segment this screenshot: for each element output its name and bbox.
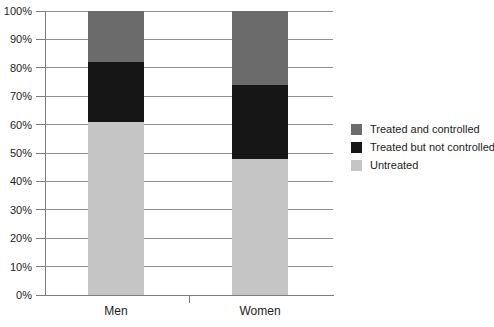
- bar-segment-treated-but-not-controlled: [232, 85, 288, 159]
- y-axis-tick: [36, 295, 45, 296]
- y-axis-tick-label: 90%: [0, 34, 32, 45]
- y-axis-tick: [36, 209, 45, 210]
- y-axis-tick-label: 10%: [0, 262, 32, 273]
- stacked-bar-chart: Treated and controlledTreated but not co…: [0, 0, 494, 327]
- y-axis-tick: [36, 153, 45, 154]
- y-axis-line: [45, 11, 46, 296]
- legend-label: Treated but not controlled: [370, 142, 494, 153]
- y-axis-tick-label: 60%: [0, 120, 32, 131]
- y-axis-tick: [36, 39, 45, 40]
- bar-segment-untreated: [88, 122, 144, 295]
- y-axis-tick: [36, 124, 45, 125]
- y-axis-tick: [36, 238, 45, 239]
- y-axis-tick-label: 30%: [0, 205, 32, 216]
- y-axis-tick-label: 20%: [0, 233, 32, 244]
- x-axis-category-label: Women: [220, 305, 300, 317]
- y-axis-tick-label: 100%: [0, 6, 32, 17]
- y-axis-tick-label: 40%: [0, 176, 32, 187]
- legend-item: Treated but not controlled: [351, 138, 494, 156]
- y-axis-tick: [36, 266, 45, 267]
- legend-label: Untreated: [370, 160, 418, 171]
- y-axis-tick-label: 50%: [0, 148, 32, 159]
- bar-segment-untreated: [232, 159, 288, 295]
- y-axis-tick-label: 80%: [0, 63, 32, 74]
- bar-segment-treated-but-not-controlled: [88, 62, 144, 122]
- legend-swatch: [351, 142, 362, 153]
- legend-label: Treated and controlled: [370, 124, 480, 135]
- y-axis-tick-label: 70%: [0, 91, 32, 102]
- y-axis-tick: [36, 96, 45, 97]
- y-axis-tick: [36, 11, 45, 12]
- y-axis-tick-label: 0%: [0, 290, 32, 301]
- legend-item: Untreated: [351, 156, 494, 174]
- bar-segment-treated-and-controlled: [88, 11, 144, 62]
- chart-legend: Treated and controlledTreated but not co…: [351, 120, 494, 174]
- bar-segment-treated-and-controlled: [232, 11, 288, 85]
- y-axis-tick: [36, 181, 45, 182]
- legend-swatch: [351, 160, 362, 171]
- legend-swatch: [351, 124, 362, 135]
- legend-item: Treated and controlled: [351, 120, 494, 138]
- x-axis-category-tick: [189, 296, 190, 303]
- y-axis-tick: [36, 67, 45, 68]
- x-axis-category-label: Men: [76, 305, 156, 317]
